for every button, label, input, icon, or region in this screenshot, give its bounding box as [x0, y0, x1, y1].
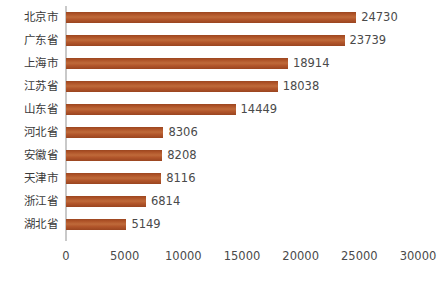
- bar-chart: 北京市24730广东省23739上海市18914江苏省18038山东省14449…: [0, 0, 445, 283]
- x-axis-tick-label: 20000: [282, 249, 319, 263]
- bar: [66, 150, 162, 161]
- bar-row: 上海市18914: [0, 52, 445, 75]
- bar-row: 北京市24730: [0, 6, 445, 29]
- bar-row: 天津市8116: [0, 167, 445, 190]
- bar-row: 安徽省8208: [0, 144, 445, 167]
- bar-value-label: 24730: [361, 6, 398, 29]
- x-axis-tick-label: 10000: [165, 249, 202, 263]
- bar-value-label: 8116: [166, 167, 195, 190]
- bar: [66, 196, 146, 207]
- x-axis-tick-label: 5000: [110, 249, 139, 263]
- category-label: 浙江省: [0, 190, 58, 213]
- bar: [66, 35, 345, 46]
- x-axis-tick-label: 15000: [224, 249, 261, 263]
- category-label: 天津市: [0, 167, 58, 190]
- category-label: 河北省: [0, 121, 58, 144]
- plot-area: 北京市24730广东省23739上海市18914江苏省18038山东省14449…: [0, 0, 445, 283]
- bar-value-label: 5149: [131, 213, 160, 236]
- bar-row: 浙江省6814: [0, 190, 445, 213]
- bar-value-label: 8306: [168, 121, 197, 144]
- bar-value-label: 18914: [293, 52, 330, 75]
- bar: [66, 81, 278, 92]
- bar-rows-container: 北京市24730广东省23739上海市18914江苏省18038山东省14449…: [0, 0, 445, 241]
- bar: [66, 12, 356, 23]
- bar-value-label: 23739: [350, 29, 387, 52]
- bar: [66, 219, 126, 230]
- category-label: 广东省: [0, 29, 58, 52]
- x-axis-tick-label: 0: [62, 249, 69, 263]
- category-label: 江苏省: [0, 75, 58, 98]
- bar-value-label: 18038: [283, 75, 320, 98]
- bar: [66, 104, 236, 115]
- x-axis-tick-label: 30000: [400, 249, 437, 263]
- category-label: 山东省: [0, 98, 58, 121]
- bar: [66, 173, 161, 184]
- bar-value-label: 8208: [167, 144, 196, 167]
- bar: [66, 127, 163, 138]
- bar-row: 河北省8306: [0, 121, 445, 144]
- bar-row: 湖北省5149: [0, 213, 445, 236]
- category-label: 安徽省: [0, 144, 58, 167]
- category-label: 上海市: [0, 52, 58, 75]
- bar-row: 江苏省18038: [0, 75, 445, 98]
- x-axis-tick-label: 25000: [341, 249, 378, 263]
- category-label: 湖北省: [0, 213, 58, 236]
- x-axis: 050001000015000200002500030000: [0, 243, 445, 283]
- category-label: 北京市: [0, 6, 58, 29]
- bar-row: 山东省14449: [0, 98, 445, 121]
- bar-value-label: 6814: [151, 190, 180, 213]
- bar-row: 广东省23739: [0, 29, 445, 52]
- bar: [66, 58, 288, 69]
- bar-value-label: 14449: [241, 98, 278, 121]
